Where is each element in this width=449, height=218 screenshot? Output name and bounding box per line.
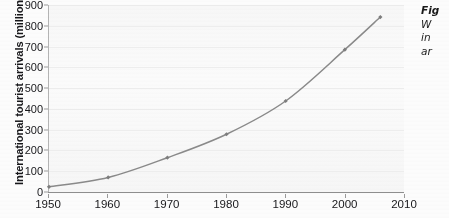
x-axis-tick-mark <box>404 194 405 198</box>
y-axis-tick-mark <box>44 129 48 130</box>
y-axis-tick-mark <box>44 5 48 6</box>
series-markers <box>47 15 383 189</box>
y-axis-tick-mark <box>44 171 48 172</box>
x-axis-tick-mark <box>48 194 49 198</box>
x-axis-tick-label: 1980 <box>213 198 239 210</box>
x-axis-tick-labels: 1950196019701980199020002010 <box>0 194 449 218</box>
x-axis-tick-mark <box>285 194 286 198</box>
y-axis-tick-label: 900 <box>17 0 43 11</box>
x-axis-line <box>48 192 404 193</box>
data-point-marker <box>165 156 169 160</box>
x-axis-tick-mark <box>107 194 108 198</box>
y-axis-tick-mark <box>44 150 48 151</box>
y-axis-tick-label: 800 <box>17 20 43 31</box>
data-point-marker <box>106 175 110 179</box>
x-axis-tick-label: 2010 <box>391 198 417 210</box>
y-axis-tick-label: 300 <box>17 124 43 135</box>
y-axis-tick-mark <box>44 192 48 193</box>
y-axis-tick-mark <box>44 46 48 47</box>
figure-container: International tourist arrivals (millions… <box>0 0 449 218</box>
x-axis-tick-label: 1960 <box>95 198 121 210</box>
x-axis-tick-mark <box>167 194 168 198</box>
y-axis-tick-mark <box>44 108 48 109</box>
y-axis-tick-label: 400 <box>17 103 43 114</box>
figure-caption-label: Fig <box>421 4 449 18</box>
figure-caption-line: in <box>421 31 449 45</box>
figure-caption-line: ar <box>421 45 449 59</box>
x-axis-tick-label: 2000 <box>332 198 358 210</box>
x-axis-tick-mark <box>226 194 227 198</box>
figure-caption: Fig W in ar <box>421 4 449 58</box>
plot-area <box>48 5 404 192</box>
x-axis-tick-label: 1990 <box>273 198 299 210</box>
series-line-path <box>49 17 380 187</box>
y-axis-tick-label: 600 <box>17 62 43 73</box>
y-axis-tick-label: 200 <box>17 145 43 156</box>
series-line-chart <box>49 5 404 192</box>
x-axis-tick-label: 1950 <box>35 198 61 210</box>
x-axis-tick-mark <box>345 194 346 198</box>
y-axis-tick-labels: 0100200300400500600700800900 <box>17 0 43 218</box>
figure-caption-line: W <box>421 18 449 32</box>
y-axis-tick-label: 700 <box>17 41 43 52</box>
y-axis-tick-mark <box>44 88 48 89</box>
x-axis-tick-label: 1970 <box>154 198 180 210</box>
y-axis-tick-mark <box>44 25 48 26</box>
y-axis-tick-label: 500 <box>17 83 43 94</box>
y-axis-tick-mark <box>44 67 48 68</box>
y-axis-tick-label: 100 <box>17 166 43 177</box>
data-point-marker <box>47 185 51 189</box>
